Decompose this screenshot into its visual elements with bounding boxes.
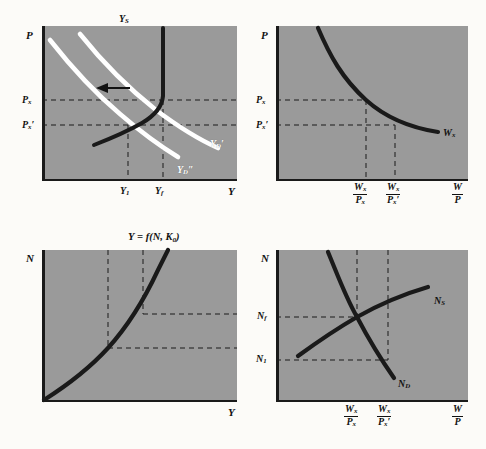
br-y-axis-label: N [261,253,269,264]
tr-curve-label-wx: Wx [443,128,455,139]
curve-wx [318,28,438,132]
tr-xtick-wxpx-prime: Wx Px′ [386,182,400,205]
tr-x-axis-label: W P [452,182,463,205]
tl-curve-label-yd-prime: YD′ [210,139,224,150]
br-curve-label-nd: ND [398,379,410,390]
y-axis-line [42,250,45,402]
tr-xtick-wxpx: Wx Px [353,182,367,205]
panel-curves [42,250,237,402]
br-ytick-n1: N1 [256,354,267,365]
x-axis-line [42,179,237,182]
panel-production-function [42,250,237,402]
tr-ytick-px-prime: Px′ [256,120,268,131]
br-xtick-wxpx: Wx Px [344,404,358,427]
tl-ytick-px-prime: Px′ [22,120,34,131]
y-axis-line [42,26,45,181]
tr-ytick-px: Px [256,95,266,106]
tl-xtick-yf: Yf [155,186,163,197]
y-axis-line [276,26,279,181]
br-xtick-wxpx-prime: Wx Px′ [377,404,391,427]
x-axis-line [276,400,468,403]
y-axis-line [276,250,279,402]
curve-production-function [44,250,168,400]
panel-curves [42,26,237,181]
tl-ytick-px: Px [22,95,32,106]
tl-x-axis-label: Y [228,186,235,197]
panel-curves [276,250,468,402]
tl-curve-label-ys: YS [119,14,129,25]
panel-curves [276,26,468,181]
x-axis-line [276,179,468,182]
panel-aggregate-demand-supply [42,26,237,181]
curve-yd-prime [80,34,218,148]
tl-curve-label-yd-double-prime: YD″ [177,165,194,176]
curve-yd-double-prime [50,40,178,157]
panel-price-real-wage [276,26,468,181]
br-curve-label-ns: NS [434,296,445,307]
tr-y-axis-label: P [261,30,268,41]
tl-y-axis-label: P [26,30,33,41]
bl-x-axis-label: Y [228,407,235,418]
curve-ns [298,287,428,356]
bl-function-title: Y = f(N, K0) [128,232,180,244]
bl-y-axis-label: N [26,253,34,264]
panel-labor-market [276,250,468,402]
br-x-axis-label: W P [452,404,463,427]
br-ytick-nf: Nf [257,311,267,322]
four-quadrant-macro-diagram: P Y Px Px′ Y1 Yf YS YD′ YD″ P W P Px Px′… [0,0,486,449]
tl-xtick-y1: Y1 [120,186,130,197]
x-axis-line [42,400,237,403]
